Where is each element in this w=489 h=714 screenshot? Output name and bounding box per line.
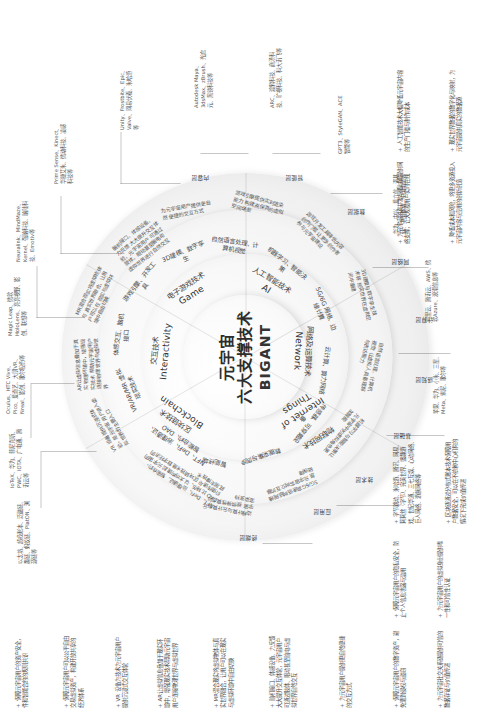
ring-label-7: 智能层 (277, 173, 311, 180)
bottom-note-8: +为元宇宙的高并发与低时延提供网络支撑，让大规模用户实时在线 (396, 158, 411, 244)
left-note-1: +保障元宇宙用户可以公平自由交易虚拟资产，构建开放共享的经济体系 (62, 636, 84, 708)
bottom-note-0: +保障元宇宙用户的数字资产，避免遭到侵权与盗窃 (392, 628, 407, 708)
bottom-note-3: +为元宇宙用户的虚拟身份提供唯一性和可信性认证 (436, 538, 451, 618)
bullet-dot-icon: + (448, 147, 455, 152)
callout-4: Neuralink、MindMaze、Kernel、强脑科技、脑陆科技、Emot… (14, 200, 35, 262)
leader-line-v-3 (36, 317, 84, 318)
bottom-note-7-text: 现实世界数据的数字化与映射，为元宇宙提供真实的数据源 (448, 70, 461, 152)
bullet-dot-icon: + (392, 519, 399, 524)
callout-9: GPT3、StyleGAN、ACE智能等 (336, 92, 350, 154)
left-note-1-text: 保障元宇宙用户可以公平自由交易虚拟资产，构建开放共享的经济体系 (62, 636, 83, 708)
bullet-dot-icon: + (338, 703, 345, 708)
bullet-dot-icon: + (436, 613, 443, 618)
ring-label-0: 应用层 (305, 507, 339, 514)
callout-7: Autodesk Maya、3dsMax、zBrush、光启元、黑镜科技等 (192, 46, 213, 108)
bullet-dot-icon: + (392, 613, 399, 618)
leader-line-h-4 (60, 196, 61, 254)
callout-2: Oculus、HTC Vive、Pico、爱奇艺、大朋VR、Nreal、影创、歌… (4, 348, 25, 414)
callout-12: 苹果、华为、小米、三星、Meta、索尼、歌尔等 (432, 352, 446, 414)
bullet-dot-icon: + (14, 703, 21, 708)
leader-line-h-3 (36, 266, 37, 318)
bullet-dot-icon: + (436, 703, 443, 708)
bottom-note-2: +为元宇宙社交关系链提供可信的数据存证与价值传递 (436, 628, 451, 708)
bullet-dot-icon: + (396, 147, 403, 152)
bottom-note-4-text: 字节跳动、米哈游、腾讯、网易、莉莉丝（字节）、完美世界、盛趣游戏、世纪华通、三七… (392, 439, 420, 524)
left-note-3: +AR让虚拟信息叠加于现实环境中，增强现实技术帮助元宇宙用户连接物理世界与虚拟世… (156, 636, 178, 708)
bullet-dot-icon: + (444, 519, 451, 524)
callout-6: Unity、Frostbite、Epic、Valve、网易伏羲、米哈游等 (118, 68, 139, 130)
center-title-bigant: BIGANT (256, 324, 273, 391)
ring-label-6: 数据层 (339, 207, 373, 214)
left-note-6: +为元宇宙用户提供更自然便捷的交互方式 (338, 636, 353, 708)
ring-label-1: 技术层 (347, 475, 381, 482)
left-note-0: +保障元宇宙用户的资产安全，件和智能合约的规则共识 (14, 636, 29, 708)
callout-1: IoTeX、华为、菲尼克斯、PWC、IOTA、广电通、腾讯云等 (8, 426, 29, 488)
bottom-note-6: +降低成本和风险，将更多资源投入元宇宙内容与应用的创新创造 (448, 158, 463, 244)
bullet-dot-icon: + (62, 703, 69, 708)
metaverse-technology-diagram: 元宇宙 六大支撑技术 BIGANT 区块链技术 Blockchain 交互技术 … (0, 0, 489, 714)
left-note-4: +MR混合现实将虚拟物体与真实世界融合，让用户可以在现实与虚拟环境中自由切换 (212, 636, 234, 708)
bullet-dot-icon: + (396, 239, 403, 244)
leader-line-v-5 (120, 183, 180, 184)
callout-0: 以太坊、超级账本、泛融链、趣链、蚂蚁链、PlatON、溯源链等 (16, 498, 37, 564)
bottom-note-5-text: 区块链通过分布式账本技术保障用户数据安全，可以在不依赖中心机构的情况下完成价值传… (444, 439, 465, 524)
callout-5: Prime Sense、Kinect、华捷艾米、微动科技、凌感科技等 (52, 122, 73, 184)
bullet-dot-icon: + (212, 703, 219, 708)
bullet-dot-icon: + (392, 703, 399, 708)
bottom-note-7: +现实世界数据的数字化与映射，为元宇宙提供真实的数据源 (448, 66, 463, 152)
leader-line-h-5 (120, 132, 121, 184)
bullet-dot-icon: + (268, 703, 275, 708)
left-note-6-text: 为元宇宙用户提供更自然便捷的交互方式 (338, 636, 351, 708)
diagram-canvas-wrapper: 元宇宙 六大支撑技术 BIGANT 区块链技术 Blockchain 交互技术 … (0, 0, 489, 714)
bottom-note-9: +人工智能技术大幅降低元宇宙内容的生产门槛与制作成本 (396, 66, 411, 152)
left-note-5: +脑机接口、体感设备、力反馈大大提升交互体验，元宇宙用户可通过肢体、眼动甚至脑电… (268, 636, 298, 708)
center-title-metaverse: 元宇宙 (218, 333, 236, 381)
callout-3: Magic Leap、微软HoloLens、亮亮视野、影创、联想等 (6, 274, 27, 336)
leader-line-v-8 (330, 193, 382, 194)
bottom-note-8-text: 为元宇宙的高并发与低时延提供网络支撑，让大规模用户实时在线 (396, 162, 409, 244)
bottom-note-9-text: 人工智能技术大幅降低元宇宙内容的生产门槛与制作成本 (396, 70, 409, 152)
bottom-note-5: +区块链通过分布式账本技术保障用户数据安全，可以在不依赖中心机构的情况下完成价值… (444, 438, 466, 524)
bullet-dot-icon: + (156, 703, 163, 708)
ring-label-8: 内容层 (183, 173, 217, 180)
bottom-note-6-text: 降低成本和风险，将更多资源投入元宇宙内容与应用的创新创造 (448, 162, 461, 244)
bottom-note-4: +字节跳动、米哈游、腾讯、网易、莉莉丝（字节）、完美世界、盛趣游戏、世纪华通、三… (392, 438, 422, 524)
leader-line-h-2 (30, 384, 31, 438)
leader-line-v-1 (40, 451, 96, 452)
center-title-six-techs: 六大支撑技术 (236, 311, 254, 404)
left-note-0-text: 保障元宇宙用户的资产安全，件和智能合约的规则共识 (14, 636, 27, 708)
left-note-2-text: VR 设备为技术为元宇宙用户提供沉浸式交互体验 (114, 637, 127, 708)
leader-line-v-9 (372, 267, 428, 268)
leader-line-v-6 (200, 153, 248, 154)
callout-11: 阿里云、腾讯云、AWS、微软Azure、浪潮信息等 (424, 260, 438, 322)
leader-line-h-1 (40, 452, 41, 508)
bottom-note-1-text: 保障元宇宙用户的隐私安全，防止个人信息泄露与滥用 (392, 541, 405, 618)
bottom-note-3-text: 为元宇宙用户的虚拟身份提供唯一性和可信性认证 (436, 541, 449, 618)
left-note-5-text: 脑机接口、体感设备、力反馈大大提升交互体验，元宇宙用户可通过肢体、眼动甚至脑电与… (268, 636, 296, 708)
leader-line-v-7 (272, 153, 320, 154)
leader-line-v-4 (60, 253, 124, 254)
bullet-dot-icon: + (114, 703, 121, 708)
leader-line-v-13 (262, 543, 312, 544)
ring-label-5: 网络层 (383, 257, 417, 264)
bullet-dot-icon: + (448, 239, 455, 244)
bottom-note-2-text: 为元宇宙社交关系链提供可信的数据存证与价值传递 (436, 631, 449, 708)
bottom-note-0-text: 保障元宇宙用户的数字资产，避免遭到侵权与盗窃 (392, 631, 405, 708)
callout-8: ARC、渡鸦科技、商汤科技、旷视科技、科大讯飞等 (268, 46, 282, 108)
left-note-3-text: AR让虚拟信息叠加于现实环境中，增强现实技术帮助元宇宙用户连接物理世界与虚拟世界 (156, 638, 177, 708)
leader-line-v-11 (386, 435, 444, 436)
ring-label-9: 终端层 (231, 533, 265, 540)
leader-line-v-12 (336, 505, 400, 506)
left-note-4-text: MR混合现实将虚拟物体与真实世界融合，让用户可以在现实与虚拟环境中自由切换 (212, 638, 233, 708)
desc-block-2: AR让虚拟信息叠加于真实 物理环境中，增强现实技术 帮助元宇宙用户连接物理 世界… (72, 335, 109, 391)
leader-line-v-2 (30, 383, 74, 384)
left-note-2: +VR 设备为技术为元宇宙用户提供沉浸式交互体验 (114, 636, 129, 708)
bottom-note-1: +保障元宇宙用户的隐私安全，防止个人信息泄露与滥用 (392, 538, 407, 618)
